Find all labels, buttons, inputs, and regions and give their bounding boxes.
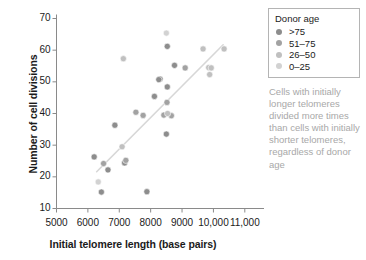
legend-entry-label: 0–25 bbox=[289, 61, 310, 73]
data-point bbox=[100, 160, 106, 166]
data-point bbox=[133, 109, 139, 115]
data-point bbox=[182, 65, 188, 71]
x-tick-label: 11,000 bbox=[218, 217, 272, 228]
series-51-75 bbox=[100, 65, 188, 167]
legend-entry-label: 51–75 bbox=[289, 38, 315, 50]
series--75 bbox=[91, 43, 178, 195]
data-point bbox=[91, 154, 97, 160]
legend-swatch-dot-icon bbox=[276, 29, 282, 35]
legend-swatch-dot-icon bbox=[276, 63, 282, 69]
data-point bbox=[119, 144, 125, 150]
data-point bbox=[164, 43, 170, 49]
data-point bbox=[200, 46, 206, 52]
data-point bbox=[144, 189, 150, 195]
data-point bbox=[95, 179, 101, 185]
legend-swatch-dot-icon bbox=[276, 40, 282, 46]
data-point bbox=[156, 77, 162, 83]
data-point bbox=[120, 56, 126, 62]
data-point bbox=[98, 189, 104, 195]
data-point bbox=[171, 62, 177, 68]
data-point bbox=[221, 46, 227, 52]
data-point bbox=[207, 71, 213, 77]
telomere-scatter-figure: Number of cell divisions Initial telomer… bbox=[0, 0, 366, 260]
data-point bbox=[208, 65, 214, 71]
y-tick-label: 30 bbox=[25, 139, 51, 150]
legend-entry[interactable]: 0–25 bbox=[275, 61, 354, 73]
data-point bbox=[112, 122, 118, 128]
y-tick-label: 40 bbox=[25, 107, 51, 118]
y-tick-label: 60 bbox=[25, 44, 51, 55]
data-point bbox=[165, 110, 171, 116]
data-point bbox=[123, 157, 129, 163]
y-tick-label: 70 bbox=[25, 12, 51, 23]
data-point bbox=[163, 30, 169, 36]
annotation-text: Cells with initially longer telomeres di… bbox=[269, 86, 365, 171]
trend-line bbox=[97, 45, 223, 172]
y-tick-label: 50 bbox=[25, 75, 51, 86]
data-point bbox=[151, 93, 157, 99]
plot-area: Number of cell divisions Initial telomer… bbox=[0, 0, 266, 260]
data-point bbox=[105, 167, 111, 173]
legend-entry[interactable]: >75 bbox=[275, 26, 354, 38]
series-26-50 bbox=[119, 46, 227, 150]
legend-entry[interactable]: 51–75 bbox=[275, 38, 354, 50]
data-point bbox=[164, 99, 170, 105]
y-tick-label: 20 bbox=[25, 170, 51, 181]
legend-title: Donor age bbox=[275, 13, 354, 24]
y-tick-label: 10 bbox=[25, 202, 51, 213]
legend-entries: >7551–7526–500–25 bbox=[275, 26, 354, 72]
data-point bbox=[140, 112, 146, 118]
legend-entry[interactable]: 26–50 bbox=[275, 49, 354, 61]
legend-entry-label: 26–50 bbox=[289, 49, 315, 61]
data-point bbox=[164, 84, 170, 90]
legend-entry-label: >75 bbox=[289, 26, 305, 38]
legend: Donor age >7551–7526–500–25 bbox=[268, 8, 360, 78]
legend-swatch-dot-icon bbox=[276, 52, 282, 58]
right-panel: Donor age >7551–7526–500–25 Cells with i… bbox=[266, 0, 366, 260]
x-axis-title: Initial telomere length (base pairs) bbox=[0, 238, 266, 250]
data-point bbox=[163, 131, 169, 137]
